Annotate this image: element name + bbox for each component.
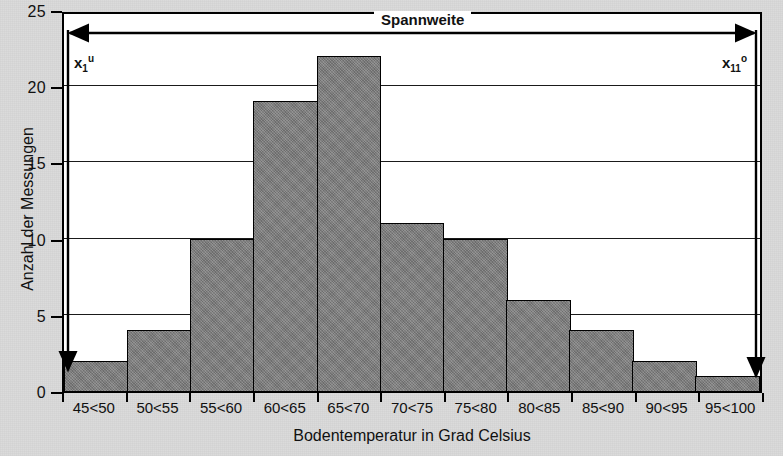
x-tick-label: 85<90 [571, 399, 635, 425]
y-tick-mark-15 [51, 163, 62, 165]
upper-bound-label: x11o [722, 53, 747, 74]
lower-bound-sup: u [88, 53, 94, 64]
bar [443, 239, 508, 391]
y-tick-label-25: 25 [28, 4, 46, 20]
upper-bound-sup: o [741, 53, 747, 64]
y-tick-mark-25 [51, 11, 62, 13]
x-tick-label: 45<50 [62, 399, 126, 425]
lower-bound-sub: 1 [82, 63, 88, 74]
y-tick-mark-20 [51, 87, 62, 89]
x-axis-title: Bodentemperatur in Grad Celsius [62, 427, 762, 445]
bar [632, 361, 697, 391]
bar [190, 239, 255, 391]
x-tick-label: 65<70 [317, 399, 381, 425]
y-tick-mark-5 [51, 316, 62, 318]
x-tick-label: 70<75 [380, 399, 444, 425]
bar [253, 101, 318, 391]
bar [695, 376, 760, 391]
x-tick-mark [762, 393, 764, 402]
lower-bound-label: x1u [74, 53, 94, 74]
x-tick-label: 60<65 [253, 399, 317, 425]
x-axis-tick-labels: 45<5050<5555<6060<6565<7070<7575<8080<85… [62, 399, 762, 425]
span-label: Spannweite [374, 11, 471, 28]
x-tick-label: 80<85 [507, 399, 571, 425]
figure-canvas: 0510152025 Anzahl der Messungen 45<5050<… [0, 0, 783, 456]
x-tick-label: 55<60 [189, 399, 253, 425]
bar [569, 330, 634, 391]
y-tick-mark-10 [51, 240, 62, 242]
bar [127, 330, 192, 391]
y-tick-label-5: 5 [37, 309, 46, 325]
upper-bound-sub: 11 [730, 63, 741, 74]
bar [506, 300, 571, 391]
y-axis-title: Anzahl der Messungen [19, 89, 37, 329]
bar [64, 361, 129, 391]
x-tick-label: 95<100 [698, 399, 762, 425]
x-tick-label: 90<95 [635, 399, 699, 425]
x-tick-label: 50<55 [126, 399, 190, 425]
bar-series [64, 14, 760, 391]
x-tick-label: 75<80 [444, 399, 508, 425]
bar [317, 56, 382, 391]
bar [380, 223, 445, 391]
y-tick-label-0: 0 [37, 385, 46, 401]
y-tick-mark-0 [51, 392, 62, 394]
plot-area [62, 12, 762, 393]
